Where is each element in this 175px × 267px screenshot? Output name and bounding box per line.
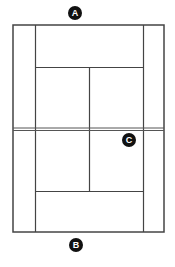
label-badge-b: B: [69, 238, 83, 252]
tennis-court: [0, 0, 175, 267]
label-badge-a: A: [68, 6, 82, 20]
label-badge-c: C: [122, 133, 136, 147]
